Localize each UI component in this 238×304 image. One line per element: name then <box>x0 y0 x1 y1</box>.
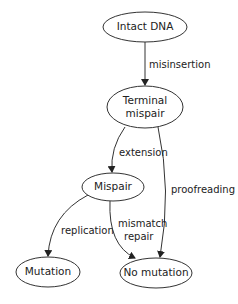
node-terminal-mispair-label-2: mispair <box>107 107 183 120</box>
edge-label-replication: replication <box>61 225 114 237</box>
node-terminal-mispair-label-1: Terminal <box>107 94 183 107</box>
node-no-mutation-label: No mutation <box>120 266 192 279</box>
edge-label-extension: extension <box>119 147 168 159</box>
node-intact-dna-label: Intact DNA <box>103 20 187 33</box>
edge-label-mismatch-repair-1: mismatch <box>118 218 167 230</box>
edge-label-mismatch-repair-2: repair <box>124 231 153 243</box>
node-mutation-label: Mutation <box>16 265 80 278</box>
node-mispair-label: Mispair <box>82 180 144 193</box>
edge-label-proofreading: proofreading <box>171 184 235 196</box>
edge-label-misinsertion: misinsertion <box>149 59 210 71</box>
